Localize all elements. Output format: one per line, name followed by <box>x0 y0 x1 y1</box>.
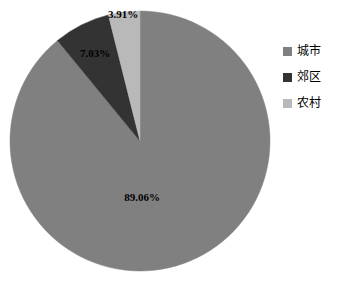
legend-swatch-icon <box>283 73 292 82</box>
pie-slices <box>10 11 270 271</box>
legend-label-suburb: 郊区 <box>297 71 321 83</box>
legend-swatch-icon <box>283 47 292 56</box>
legend: 城市 郊区 农村 <box>283 38 339 116</box>
legend-item-city[interactable]: 城市 <box>283 38 339 64</box>
pie-label-city: 89.06% <box>124 191 160 203</box>
legend-swatch-icon <box>283 99 292 108</box>
legend-label-city: 城市 <box>297 45 321 57</box>
pie-label-suburb: 7.03% <box>80 47 110 59</box>
pie-label-rural: 3.91% <box>108 8 138 20</box>
pie-chart: 3.91% 7.03% 89.06% 城市 郊区 农村 <box>0 0 339 282</box>
legend-label-rural: 农村 <box>297 97 321 109</box>
legend-item-rural[interactable]: 农村 <box>283 90 339 116</box>
legend-item-suburb[interactable]: 郊区 <box>283 64 339 90</box>
